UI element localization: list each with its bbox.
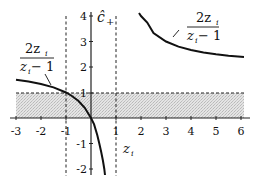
svg-text:+: + — [106, 16, 114, 27]
svg-text:-3: -3 — [11, 125, 22, 138]
svg-text:5: 5 — [213, 125, 220, 138]
x-axis-label: z i — [122, 141, 134, 158]
svg-text:2: 2 — [80, 61, 87, 74]
svg-text:z: z — [19, 59, 27, 74]
svg-text:-2: -2 — [36, 125, 47, 138]
svg-text:2: 2 — [138, 125, 145, 138]
svg-text:-1: -1 — [76, 138, 87, 151]
svg-text:ĉ: ĉ — [97, 9, 105, 25]
svg-text:3: 3 — [163, 125, 170, 138]
svg-text:− 1: − 1 — [198, 28, 221, 43]
svg-text:1: 1 — [80, 87, 87, 100]
svg-text:z: z — [122, 141, 130, 156]
svg-text:i: i — [45, 49, 48, 58]
svg-text:4: 4 — [188, 125, 195, 138]
svg-text:− 1: − 1 — [31, 59, 54, 74]
svg-text:i: i — [131, 149, 134, 158]
svg-text:4: 4 — [80, 10, 87, 23]
leader-line-right — [173, 30, 179, 37]
svg-text:-1: -1 — [61, 125, 72, 138]
svg-text:2z: 2z — [196, 10, 211, 25]
svg-text:1: 1 — [113, 125, 120, 138]
svg-text:i: i — [216, 18, 219, 27]
y-axis-label: ĉ + — [97, 9, 114, 27]
function-plot: -3 -2 -1 1 2 3 4 5 6 4 3 2 1 -1 -2 ĉ + z… — [0, 0, 262, 183]
left-curve-annotation: 2z i z i − 1 — [19, 41, 54, 85]
shaded-region — [16, 93, 244, 118]
right-curve-annotation: 2z i z i − 1 — [173, 10, 221, 45]
svg-text:-2: -2 — [76, 163, 87, 176]
leader-line-left — [45, 74, 51, 85]
svg-text:6: 6 — [238, 125, 245, 138]
svg-text:2z: 2z — [25, 41, 40, 56]
svg-text:z: z — [186, 28, 194, 43]
x-tick-labels: -3 -2 -1 1 2 3 4 5 6 — [11, 125, 245, 138]
svg-text:3: 3 — [80, 36, 87, 49]
